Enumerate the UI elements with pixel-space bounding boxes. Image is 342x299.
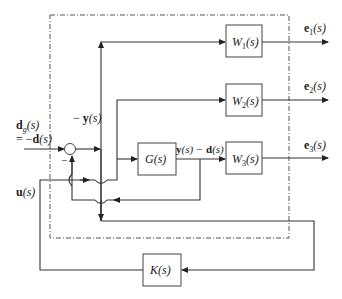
neg-y-label: − y(s) [73, 111, 101, 125]
u-to-g-line [107, 173, 117, 180]
e2-label: e2(s) [304, 79, 326, 95]
w2-label: W2(s) [232, 94, 259, 110]
y-minus-d-label: y(s) − d(s) [176, 143, 224, 156]
summing-junction [65, 144, 76, 155]
w3-label: W3(s) [232, 152, 259, 168]
e3-label: e3(s) [304, 138, 326, 154]
k-label: K(s) [149, 263, 171, 277]
dg-equals-label: = −d(s) [16, 132, 52, 146]
block-diagram: W1(s) W2(s) W3(s) G(s) K(s) e1(s) e2(s) … [0, 0, 342, 299]
k-input-line [101, 221, 314, 270]
feedback-to-sum-line [72, 162, 95, 200]
u-label: u(s) [16, 185, 35, 199]
sum-minus-sign: − [61, 154, 67, 166]
u-feedback-line [40, 180, 143, 270]
e1-label: e1(s) [304, 21, 326, 37]
g-label: G(s) [145, 152, 166, 166]
w1-label: W1(s) [232, 35, 259, 51]
